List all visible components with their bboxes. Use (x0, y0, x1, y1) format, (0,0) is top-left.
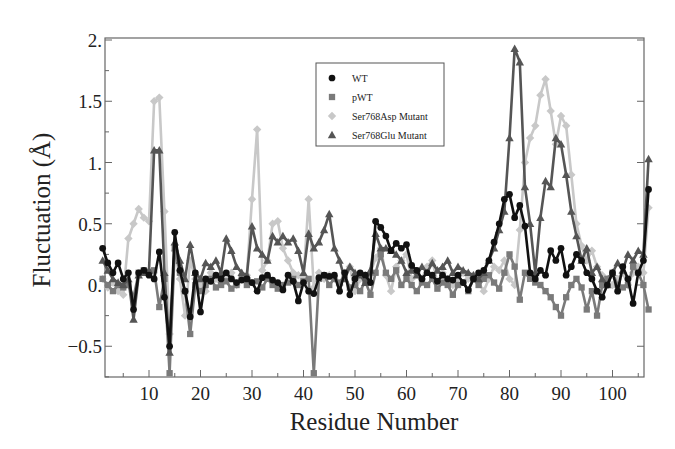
legend-label: Ser768Asp Mutant (352, 111, 428, 122)
x-tick-label: 70 (449, 383, 468, 404)
legend-circle-icon (329, 75, 336, 82)
y-tick-label: −0.5 (68, 336, 102, 357)
x-tick-label: 50 (346, 383, 365, 404)
legend-label: WT (352, 73, 368, 84)
fluctuation-chart: −0.50.0.51.1.52. 102030405060708090100 R… (0, 0, 675, 449)
y-tick-label: 1.5 (78, 91, 102, 112)
x-tick-label: 90 (552, 383, 571, 404)
x-tick-label: 10 (140, 383, 159, 404)
x-tick-label: 40 (294, 383, 313, 404)
x-tick-label: 30 (243, 383, 262, 404)
x-tick-label: 20 (191, 383, 210, 404)
y-axis-title: Fluctuation (Å) (28, 133, 56, 288)
legend-square-icon (329, 94, 335, 100)
y-tick-label: 1. (88, 153, 102, 174)
legend-label: Ser768Glu Mutant (352, 130, 427, 141)
x-tick-label: 80 (500, 383, 519, 404)
y-tick-label: 2. (88, 30, 102, 51)
x-axis: 102030405060708090100 (123, 370, 638, 404)
x-tick-label: 100 (598, 383, 627, 404)
y-tick-label: 0.5 (78, 214, 102, 235)
legend-label: pWT (352, 92, 373, 103)
legend: WTpWTSer768Asp MutantSer768Glu Mutant (316, 63, 444, 146)
x-axis-title: Residue Number (290, 408, 459, 435)
x-tick-label: 60 (397, 383, 416, 404)
